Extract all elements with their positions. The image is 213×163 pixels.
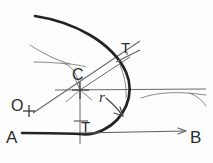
radius-callout-arrow-icon [106, 98, 123, 116]
point-o-plus-icon [23, 105, 35, 117]
figure-canvas [0, 0, 213, 163]
thin-curve-right [141, 93, 206, 98]
baseline-left-thick [22, 133, 80, 134]
label-center-c: C [72, 67, 84, 83]
label-tangent-lower: T [81, 119, 90, 134]
label-point-a: A [6, 129, 17, 146]
label-point-b: B [190, 129, 201, 146]
geometry-figure: A B O C r T T [0, 0, 213, 163]
label-radius-r: r [99, 90, 105, 105]
spoke-c-lower-right [80, 90, 92, 100]
label-tangent-upper: T [121, 40, 130, 55]
thin-curve-upper-left [30, 45, 70, 64]
label-point-o: O [11, 98, 23, 114]
spoke-c-lower-left [66, 90, 80, 102]
